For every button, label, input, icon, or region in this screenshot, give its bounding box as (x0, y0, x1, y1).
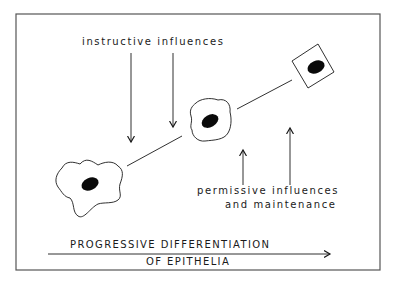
cell-1-irregular (56, 160, 122, 217)
maintenance-label: and maintenance (225, 199, 337, 210)
progression-title-line2: OF EPITHELIA (146, 256, 230, 267)
progression-title-line1: PROGRESSIVE DIFFERENTIATION (70, 239, 270, 250)
connector-line-1 (127, 136, 182, 166)
cell-3-square (292, 44, 334, 88)
diagram-frame (16, 14, 380, 270)
cell-1-nucleus (79, 175, 100, 193)
permissive-influences-label: permissive influences (197, 185, 339, 196)
instructive-influences-label: instructive influences (82, 36, 224, 47)
connector-line-2 (237, 80, 292, 109)
cell-2-nucleus (199, 111, 221, 130)
cell-2-rounded (190, 99, 231, 142)
cell-3-nucleus (305, 58, 326, 76)
